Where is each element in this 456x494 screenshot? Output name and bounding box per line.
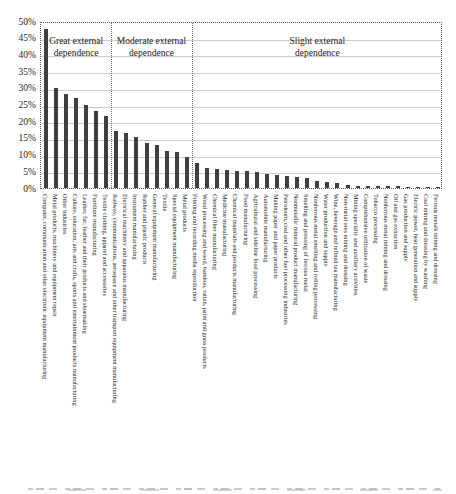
x-tick-label: Wine, beverage and refined tea manufactu…	[333, 194, 340, 311]
x-tick-label: Smelting and pressing of ferrous metal	[303, 194, 310, 292]
y-tick-label: 10%	[0, 150, 36, 161]
bar	[54, 88, 58, 188]
bar	[315, 181, 319, 188]
x-tick-label: Instrument manufacturing	[132, 194, 139, 260]
x-tick-label: Agricultural and sideline food processin…	[253, 194, 260, 298]
x-tick-label: Other industries	[62, 194, 69, 234]
x-tick-label: Petroleum, coal and other fuel processin…	[283, 194, 290, 325]
x-tick-label: Furniture manufacturing	[92, 194, 99, 256]
x-tick-label: Comprehensive utilization of waste	[363, 194, 370, 283]
gridline	[41, 140, 441, 141]
gridline	[41, 173, 441, 174]
bar	[175, 152, 179, 188]
x-tick-label: Water production and supply	[323, 194, 330, 267]
bar	[305, 178, 309, 188]
group-label: Slight external dependence	[267, 35, 367, 60]
bar	[145, 143, 149, 188]
x-tick-label: Automobile manufacturing	[263, 194, 270, 262]
x-tick-label: Textile	[162, 194, 169, 211]
x-tick-label: Medicine manufacturing	[222, 194, 229, 256]
bar	[124, 133, 128, 188]
bar	[356, 186, 360, 188]
bar	[285, 176, 289, 188]
bar	[44, 29, 48, 188]
bar	[84, 105, 88, 189]
x-tick-label: Tobacco processing	[373, 194, 380, 244]
bar	[235, 171, 239, 188]
x-tick-label: Chemical fiber manufacturing	[212, 194, 219, 270]
x-tick-label: Food manufacturing	[243, 194, 250, 245]
bar	[165, 151, 169, 188]
x-tick-label: Nonferrous metal mining and dressing	[383, 194, 390, 291]
bar	[335, 183, 339, 188]
dependence-bar-chart-figure: Great external dependenceModerate extern…	[0, 0, 456, 494]
x-tick-label: Special equipment manufacturing	[172, 194, 179, 279]
group-label: Moderate external dependence	[111, 35, 191, 60]
bar	[325, 182, 329, 188]
bar	[64, 94, 68, 188]
bar	[396, 186, 400, 188]
x-tick-label: Railway, communications, aerospace and o…	[112, 194, 119, 403]
y-tick-label: 45%	[0, 33, 36, 44]
bar	[255, 172, 259, 188]
y-tick-label: 50%	[0, 17, 36, 28]
bar	[74, 98, 78, 188]
bar	[94, 111, 98, 188]
x-tick-label: Wood processing and wood, bamboo, rattan…	[202, 194, 209, 369]
bar	[265, 174, 269, 188]
y-tick-label: 0%	[0, 184, 36, 195]
x-tick-label: Culture, education, arts and crafts, spo…	[72, 194, 79, 406]
x-tick-label: Oil and gas extraction	[393, 194, 400, 249]
x-tick-label: Metal products, machinery and equipment …	[52, 194, 59, 317]
bar	[114, 131, 118, 188]
bar	[275, 175, 279, 188]
x-tick-label: Coal mining and dressing by washing	[423, 194, 430, 289]
bar	[205, 168, 209, 188]
bar	[366, 186, 370, 188]
y-tick-label: 40%	[0, 50, 36, 61]
bar	[346, 185, 350, 188]
x-tick-label: Electrical machinery and apparatus manuf…	[122, 194, 129, 321]
y-tick-label: 25%	[0, 100, 36, 111]
x-tick-label: Metal products	[182, 194, 189, 232]
bar	[195, 163, 199, 188]
bar	[295, 177, 299, 188]
bar	[386, 186, 390, 188]
gridline	[41, 107, 441, 108]
group-label: Great external dependence	[41, 35, 111, 60]
bar	[426, 187, 430, 188]
gridline	[41, 90, 441, 91]
x-tick-label: Printing and recording media reproductio…	[192, 194, 199, 301]
x-tick-label: Chemical materials and products manufact…	[232, 194, 239, 315]
x-tick-label: Gas production and supply	[403, 194, 410, 262]
x-tick-label: General equipment manufacturing	[152, 194, 159, 280]
x-tick-label: Leather, fur, feather and their products…	[82, 194, 89, 334]
bar	[436, 187, 440, 188]
x-tick-label: Ferrous metals mining and dressing	[433, 194, 440, 284]
bar	[134, 137, 138, 188]
x-tick-label: Non-metal ores mining and dressing	[343, 194, 350, 286]
y-tick-label: 20%	[0, 117, 36, 128]
x-tick-label: Making paper and paper products	[273, 194, 280, 279]
bar	[406, 187, 410, 189]
x-tick-label: Rubber and plastic products	[142, 194, 149, 264]
x-tick-label: Nonmetallic mineral product manufacturin…	[293, 194, 300, 305]
bar	[225, 170, 229, 188]
x-tick-label: Electric power, heat generation and supp…	[413, 194, 420, 301]
y-tick-label: 5%	[0, 167, 36, 178]
x-tick-label: Nonferrous metal smelting and rolling pr…	[313, 194, 320, 319]
bar	[104, 116, 108, 188]
bar	[245, 171, 249, 188]
bar	[416, 187, 420, 189]
bar	[215, 169, 219, 188]
gridline	[41, 123, 441, 124]
x-tick-label: Computer, communication and other electr…	[42, 194, 49, 379]
y-tick-label: 15%	[0, 133, 36, 144]
bar	[376, 186, 380, 188]
gridline	[41, 73, 441, 74]
x-tick-label: Mining specialty and auxiliary activitie…	[353, 194, 360, 295]
gridline	[41, 157, 441, 158]
plot-area: Great external dependenceModerate extern…	[40, 22, 442, 189]
y-tick-label: 30%	[0, 83, 36, 94]
x-tick-label: Textile clothing, apparel and accessorie…	[102, 194, 109, 296]
